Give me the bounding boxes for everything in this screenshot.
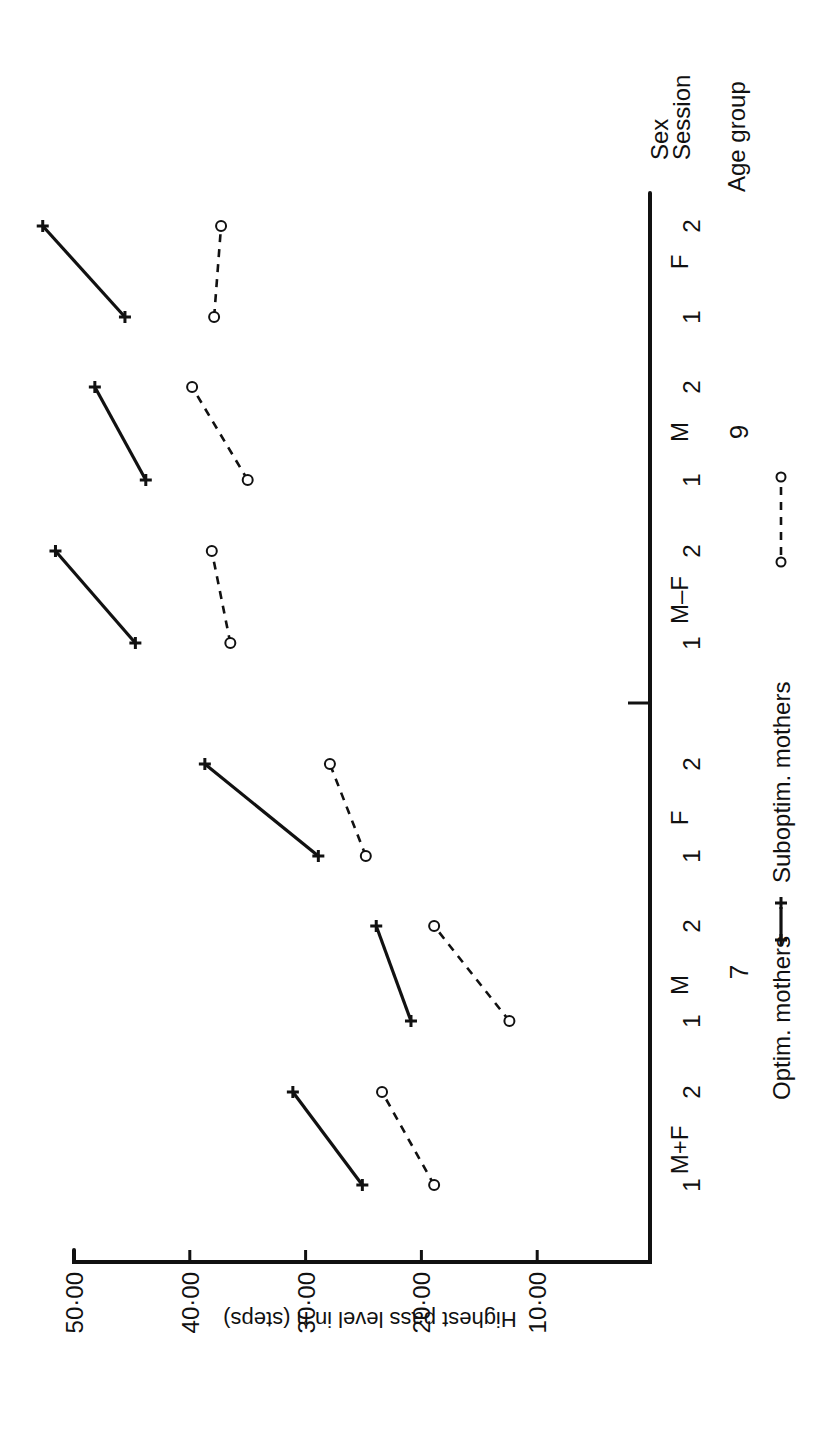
legend-optim-label: Optim. mothers xyxy=(768,936,795,1100)
optim-line xyxy=(95,387,146,480)
value-tick-label: 10·00 xyxy=(524,1272,551,1333)
suboptim-point-session-1 xyxy=(429,1180,439,1190)
session-label: 1 xyxy=(678,310,705,323)
suboptim-point-session-1 xyxy=(361,851,371,861)
data-pair-9-M–F xyxy=(49,545,235,649)
session-label: 2 xyxy=(678,757,705,770)
data-pair-9-M xyxy=(89,381,253,486)
suboptim-point-session-1 xyxy=(225,638,235,648)
suboptim-point-session-2 xyxy=(325,759,335,769)
suboptim-point-session-2 xyxy=(187,382,197,392)
optim-point-session-2 xyxy=(370,920,382,932)
sex-label: M–F xyxy=(666,576,693,624)
suboptim-point-session-2 xyxy=(216,221,226,231)
session-label: 2 xyxy=(678,919,705,932)
session-label: 2 xyxy=(678,1085,705,1098)
suboptim-point-session-1 xyxy=(243,475,253,485)
row-title-session: Session xyxy=(668,75,695,160)
session-label: 1 xyxy=(678,473,705,486)
sex-label: M xyxy=(666,975,693,995)
sex-label: M xyxy=(666,422,693,442)
suboptim-line xyxy=(214,226,221,317)
optim-point-session-2 xyxy=(89,381,101,393)
chart-figure: 10·0020·0030·0040·0050·00Highest pass le… xyxy=(0,0,819,1435)
optim-line xyxy=(293,1092,362,1185)
session-label: 1 xyxy=(678,636,705,649)
legend-optim-plus-icon xyxy=(775,897,787,909)
suboptim-line xyxy=(330,764,366,856)
session-label: 2 xyxy=(678,380,705,393)
suboptim-point-session-2 xyxy=(429,921,439,931)
legend-suboptim-label: Suboptim. mothers xyxy=(768,682,795,883)
session-label: 2 xyxy=(678,544,705,557)
plot-area xyxy=(37,220,515,1191)
row-title-age-group: Age group xyxy=(723,81,750,192)
suboptim-line xyxy=(192,387,248,480)
optim-line xyxy=(205,764,318,856)
data-pair-7-M+F xyxy=(287,1086,439,1191)
value-tick-label: 50·00 xyxy=(61,1272,88,1333)
suboptim-line xyxy=(434,926,509,1021)
suboptim-line xyxy=(212,551,231,643)
age-group-label: 9 xyxy=(724,425,754,439)
axis-line xyxy=(74,193,650,1262)
legend-suboptim-circle-icon xyxy=(777,473,786,482)
suboptim-point-session-2 xyxy=(377,1087,387,1097)
legend: Optim. mothersSuboptim. mothers xyxy=(768,473,795,1101)
suboptim-point-session-1 xyxy=(504,1016,514,1026)
value-axis-title: Highest pass level in n (steps) xyxy=(223,1307,516,1332)
optim-line xyxy=(376,926,411,1021)
sex-label: F xyxy=(666,255,693,270)
data-pair-7-M xyxy=(370,920,514,1027)
sex-label: M+F xyxy=(666,1126,693,1175)
suboptim-point-session-2 xyxy=(207,546,217,556)
legend-suboptim-circle-icon xyxy=(777,558,786,567)
data-pair-9-F xyxy=(37,220,226,323)
optim-point-session-1 xyxy=(405,1015,417,1027)
session-label: 1 xyxy=(678,849,705,862)
value-tick-label: 40·00 xyxy=(177,1272,204,1333)
session-label: 1 xyxy=(678,1178,705,1191)
sex-label: F xyxy=(666,811,693,826)
optim-point-session-1 xyxy=(140,474,152,486)
age-group-label: 7 xyxy=(724,965,754,979)
optim-line xyxy=(43,226,125,317)
session-label: 1 xyxy=(678,1014,705,1027)
optim-line xyxy=(55,551,135,643)
data-pair-7-F xyxy=(199,758,371,862)
suboptim-line xyxy=(382,1092,434,1185)
value-axis: 10·0020·0030·0040·0050·00Highest pass le… xyxy=(61,193,650,1333)
suboptim-point-session-1 xyxy=(209,312,219,322)
category-labels: M+F12M12F127M–F12M12F129SexSessionAge gr… xyxy=(646,75,754,1192)
session-label: 2 xyxy=(678,219,705,232)
